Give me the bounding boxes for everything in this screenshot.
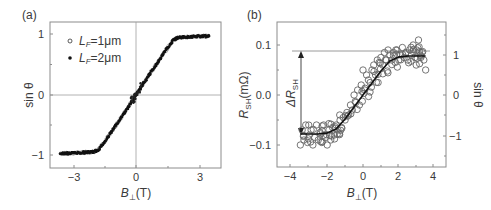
panel-b-xtick-neg2: −2 bbox=[321, 170, 334, 182]
panel-b-ytick-right-neg1: −1 bbox=[449, 130, 462, 142]
panel-b-xtick-2: 2 bbox=[395, 170, 401, 182]
panel-b-ylabel-left: RSH(mΩ) bbox=[237, 72, 253, 119]
panel-b-xtick-4: 4 bbox=[430, 170, 436, 182]
panel-a-ytick-neg1: −1 bbox=[31, 149, 44, 161]
panel-b-ytick-right-0: 0 bbox=[453, 89, 459, 101]
panel-b-ytick-neg0.1: −0.1 bbox=[249, 139, 271, 151]
panel-a-ylabel: sin θ bbox=[22, 82, 36, 108]
legend-open-circle-icon bbox=[68, 39, 72, 43]
panel-a-xtick-3: 3 bbox=[197, 171, 203, 183]
panel-a-label: (a) bbox=[22, 8, 37, 22]
legend-item-2: LF=2μm bbox=[79, 51, 121, 66]
panel-b-ylabel-right: sin θ bbox=[471, 82, 485, 108]
panel-a-legend: LF=1μm LF=2μm bbox=[68, 34, 121, 66]
panel-b-ytick-right-1: 1 bbox=[453, 49, 459, 61]
panel-a-ytick-0: 0 bbox=[38, 89, 44, 101]
panel-b-xlabel: B⊥(T) bbox=[347, 186, 377, 202]
figure: (a) 1 0 −1 −3 0 3 B⊥(T) sin θ bbox=[0, 0, 491, 210]
panel-b: (b) 0.1 0.0 −0.1 1 0 −1 bbox=[237, 8, 485, 202]
panel-b-ytick-0.1: 0.1 bbox=[256, 39, 271, 51]
panel-b-xtick-0: 0 bbox=[360, 170, 366, 182]
panel-a-xlabel: B⊥(T) bbox=[121, 186, 151, 202]
panel-a: (a) 1 0 −1 −3 0 3 B⊥(T) sin θ bbox=[22, 8, 221, 202]
delta-rsh-double-arrow-icon bbox=[298, 51, 304, 135]
delta-rsh-label: ΔRSH bbox=[284, 79, 300, 108]
panel-a-xtick-neg3: −3 bbox=[68, 171, 81, 183]
panel-b-data bbox=[297, 37, 429, 148]
panel-a-xtick-0: 0 bbox=[133, 171, 139, 183]
legend-item-1: LF=1μm bbox=[79, 34, 121, 49]
panel-a-ytick-1: 1 bbox=[38, 28, 44, 40]
panel-b-xtick-neg4: −4 bbox=[284, 170, 297, 182]
panel-b-ytick-0.0: 0.0 bbox=[256, 89, 271, 101]
legend-filled-circle-icon bbox=[68, 56, 72, 60]
panel-b-label: (b) bbox=[247, 8, 262, 22]
